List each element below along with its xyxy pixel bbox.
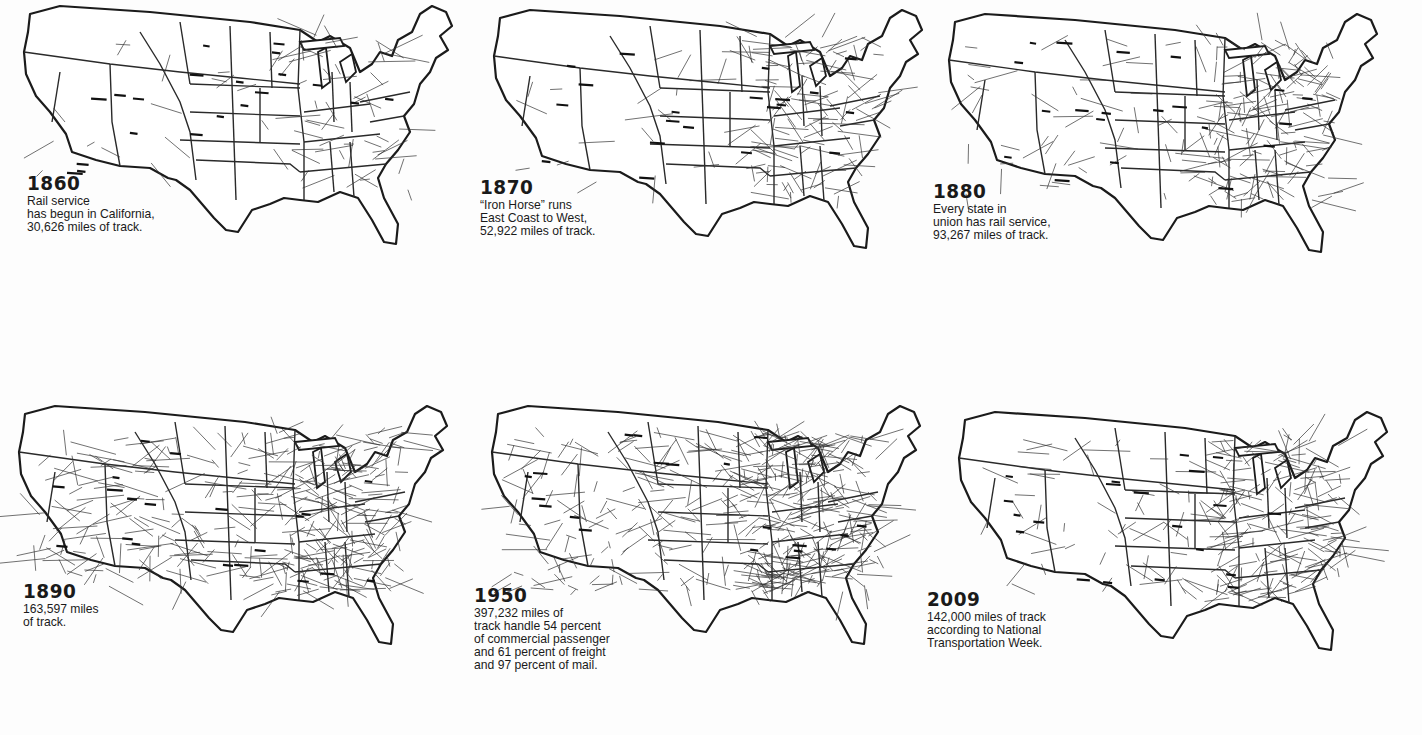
caption-1950: 1950 397,232 miles of track handle 54 pe… bbox=[474, 584, 610, 671]
caption-1860: 1860 Rail service has begun in Californi… bbox=[27, 172, 155, 233]
map-panel-1880: 1880 Every state in union has rail servi… bbox=[925, 0, 1385, 260]
year-label: 1870 bbox=[480, 176, 605, 198]
year-label: 2009 bbox=[927, 588, 1055, 610]
caption-1890: 1890 163,597 miles of track. bbox=[23, 580, 99, 628]
map-panel-2009: 2009 142,000 miles of track according to… bbox=[935, 398, 1395, 658]
caption-line: 93,267 miles of track. bbox=[933, 228, 1051, 241]
year-label: 1880 bbox=[933, 180, 1060, 202]
caption-1880: 1880 Every state in union has rail servi… bbox=[933, 180, 1051, 241]
year-label: 1950 bbox=[474, 584, 621, 606]
year-label: 1890 bbox=[23, 580, 105, 602]
caption-line: and 97 percent of mail. bbox=[474, 658, 610, 671]
map-panel-1950: 1950 397,232 miles of track handle 54 pe… bbox=[468, 392, 928, 652]
caption-line: of track. bbox=[23, 615, 99, 628]
map-panel-1890: 1890 163,597 miles of track. bbox=[0, 392, 455, 652]
caption-2009: 2009 142,000 miles of track according to… bbox=[927, 588, 1046, 649]
caption-line: 52,922 miles of track. bbox=[480, 224, 595, 237]
map-panel-1860: 1860 Rail service has begun in Californi… bbox=[0, 0, 460, 252]
caption-line: 30,626 miles of track. bbox=[27, 220, 155, 233]
map-panel-1870: 1870 “Iron Horse” runs East Coast to Wes… bbox=[470, 0, 930, 256]
caption-1870: 1870 “Iron Horse” runs East Coast to Wes… bbox=[480, 176, 595, 237]
caption-line: Transportation Week. bbox=[927, 636, 1046, 649]
year-label: 1860 bbox=[27, 172, 165, 194]
